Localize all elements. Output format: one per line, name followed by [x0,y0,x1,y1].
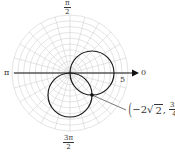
grid-spoke [70,73,120,102]
r-tick-label-5: 5 [120,76,125,84]
grid-spoke [14,58,70,73]
grid-spoke [20,73,70,102]
angle-label-pi: π [4,69,9,77]
angle-label-3pi-over-2: 3π 2 [63,134,74,151]
sqrt-icon: √ [147,104,153,115]
point-theta: 3π 4 [169,101,175,118]
theta-numerator: 3π [169,101,175,110]
intersection-point [90,93,94,97]
grid-spoke [70,23,99,73]
label-denominator: 2 [66,143,70,151]
theta-denominator: 4 [172,110,175,118]
point-comma: , [163,104,166,115]
grid-spoke [55,17,70,73]
grid-spoke [41,73,70,123]
label-numerator: 3π [63,134,74,143]
polar-axis-arrow-icon [132,70,139,77]
label-numerator: π [64,0,71,8]
polar-plot [0,0,175,159]
grid-spoke [70,58,126,73]
angle-label-zero: 0 [141,69,146,77]
label-denominator: 2 [65,8,69,16]
angle-label-pi-over-2: π 2 [64,0,71,16]
grid-spoke [41,23,70,73]
point-r-sqrt: 2 [154,104,162,116]
intersection-point-label: ( −2√2, 3π 4 [127,101,175,118]
grid-spoke [70,44,120,73]
point-r-prefix: −2 [132,104,147,115]
grid-spoke [55,73,70,129]
grid-spoke [20,44,70,73]
open-paren: ( [128,102,132,118]
grid-spoke [70,73,99,123]
